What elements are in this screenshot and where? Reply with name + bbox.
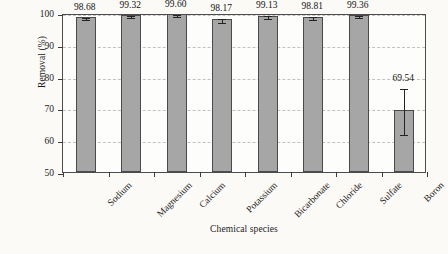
- bar: [303, 17, 323, 172]
- y-axis-tick: [58, 142, 63, 143]
- error-bar-cap: [218, 23, 226, 24]
- bar-chart: Removal (%) Chemical species 50607080901…: [0, 0, 448, 254]
- bar-value-label: 99.60: [165, 0, 186, 9]
- x-axis-tick: [200, 172, 201, 177]
- error-bar-cap: [400, 135, 408, 136]
- y-axis-tick-label: 50: [14, 168, 54, 178]
- bar-value-label: 98.68: [74, 2, 95, 12]
- x-axis-category-label: Potassium: [245, 180, 280, 215]
- error-bar-cap: [400, 89, 408, 90]
- x-axis-category-label: Sodium: [105, 180, 133, 208]
- x-axis-tick: [109, 172, 110, 177]
- gridline: [63, 47, 425, 48]
- gridline: [63, 110, 425, 111]
- error-bar: [404, 89, 405, 135]
- bar: [349, 15, 369, 172]
- error-bar-cap: [127, 16, 135, 17]
- x-axis-category-label: Boron: [422, 180, 446, 204]
- error-bar-cap: [82, 20, 90, 21]
- y-axis-tick-label: 70: [14, 104, 54, 114]
- y-axis-tick: [58, 79, 63, 80]
- error-bar-cap: [355, 18, 363, 19]
- bar: [76, 17, 96, 172]
- x-axis-tick: [245, 172, 246, 177]
- x-axis-category-label: Magnesium: [155, 180, 194, 219]
- bar-value-label: 99.36: [347, 0, 368, 10]
- y-axis-tick: [58, 47, 63, 48]
- x-axis-tick: [336, 172, 337, 177]
- error-bar-cap: [82, 18, 90, 19]
- x-axis-tick: [291, 172, 292, 177]
- x-axis-tick: [154, 172, 155, 177]
- bar-value-label: 69.54: [393, 73, 414, 83]
- x-axis-tick: [63, 172, 64, 177]
- error-bar-cap: [309, 20, 317, 21]
- gridline: [63, 15, 425, 16]
- y-axis-tick-label: 100: [14, 9, 54, 19]
- error-bar-cap: [127, 18, 135, 19]
- y-axis-tick: [58, 110, 63, 111]
- error-bar-cap: [309, 17, 317, 18]
- x-axis-category-label: Sulfate: [378, 180, 404, 206]
- x-axis-category-label: Chloride: [334, 180, 365, 211]
- gridline: [63, 142, 425, 143]
- bar: [121, 15, 141, 172]
- plot-area: [62, 14, 426, 173]
- error-bar-cap: [264, 16, 272, 17]
- bar: [212, 19, 232, 172]
- plot-inner: [63, 15, 425, 172]
- y-axis-tick: [58, 15, 63, 16]
- bar: [167, 14, 187, 172]
- bar-value-label: 98.81: [302, 1, 323, 11]
- gridline: [63, 79, 425, 80]
- x-axis-tick: [427, 172, 428, 177]
- error-bar-cap: [173, 17, 181, 18]
- bar-value-label: 99.32: [120, 0, 141, 10]
- x-axis-category-label: Bicarbonate: [292, 180, 332, 220]
- bar-value-label: 98.17: [211, 3, 232, 13]
- x-axis-title: Chemical species: [62, 224, 426, 234]
- x-axis-tick: [382, 172, 383, 177]
- y-axis-tick-label: 90: [14, 41, 54, 51]
- error-bar-cap: [218, 19, 226, 20]
- error-bar-cap: [264, 19, 272, 20]
- x-axis-category-label: Calcium: [197, 180, 227, 210]
- bar: [258, 16, 278, 172]
- y-axis-tick-label: 80: [14, 73, 54, 83]
- y-axis-tick-label: 60: [14, 136, 54, 146]
- bar-value-label: 99.13: [256, 0, 277, 10]
